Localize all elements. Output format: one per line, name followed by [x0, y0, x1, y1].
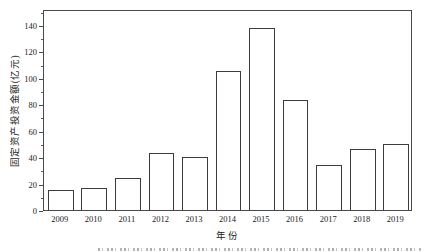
bar-2010	[81, 188, 107, 210]
x-tick-label-2017: 2017	[311, 214, 345, 224]
y-major-tick	[39, 211, 43, 212]
plot-area	[43, 10, 412, 211]
bar-2018	[350, 149, 376, 210]
y-tick-label-100: 100	[0, 74, 37, 84]
y-major-tick	[39, 79, 43, 80]
y-major-tick	[39, 132, 43, 133]
y-major-tick	[39, 26, 43, 27]
clipped-caption-strip	[98, 248, 422, 251]
bar-2009	[48, 190, 74, 210]
x-tick-label-2012: 2012	[143, 214, 177, 224]
x-tick-label-2016: 2016	[278, 214, 312, 224]
y-tick-label-60: 60	[0, 127, 37, 137]
y-tick-label-120: 120	[0, 47, 37, 57]
y-axis-title: 固定资产投资金额(亿元)	[7, 54, 21, 166]
x-tick-label-2009: 2009	[43, 214, 77, 224]
bar-2016	[283, 100, 309, 210]
y-minor-tick	[41, 39, 44, 40]
bar-2015	[249, 28, 275, 210]
x-tick-label-2011: 2011	[110, 214, 144, 224]
bar-2011	[115, 178, 141, 210]
x-tick-label-2013: 2013	[177, 214, 211, 224]
y-minor-tick	[41, 92, 44, 93]
y-minor-tick	[41, 145, 44, 146]
x-tick-label-2018: 2018	[345, 214, 379, 224]
bar-2017	[316, 165, 342, 210]
bar-2012	[149, 153, 175, 210]
y-minor-tick	[41, 171, 44, 172]
y-minor-tick	[41, 118, 44, 119]
bar-2019	[383, 144, 409, 210]
y-major-tick	[39, 158, 43, 159]
bar-2013	[182, 157, 208, 210]
y-tick-label-0: 0	[0, 206, 37, 216]
x-tick-label-2015: 2015	[244, 214, 278, 224]
x-tick-label-2010: 2010	[76, 214, 110, 224]
x-tick-label-2014: 2014	[211, 214, 245, 224]
bar-chart-figure: 固定资产投资金额(亿元) 020406080100120140 20092010…	[0, 0, 425, 252]
y-tick-label-40: 40	[0, 153, 37, 163]
y-major-tick	[39, 185, 43, 186]
y-tick-label-80: 80	[0, 100, 37, 110]
y-minor-tick	[41, 198, 44, 199]
x-tick-label-2019: 2019	[378, 214, 412, 224]
y-minor-tick	[41, 13, 44, 14]
y-tick-label-20: 20	[0, 180, 37, 190]
y-major-tick	[39, 105, 43, 106]
y-tick-label-140: 140	[0, 21, 37, 31]
y-major-tick	[39, 52, 43, 53]
x-axis-title: 年份	[205, 228, 251, 242]
bar-2014	[216, 71, 242, 210]
y-minor-tick	[41, 66, 44, 67]
